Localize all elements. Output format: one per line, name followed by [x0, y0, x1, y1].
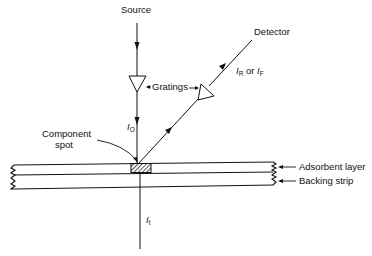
- gratings-label: Gratings: [152, 82, 188, 92]
- adsorbent-layer-label: Adsorbent layer: [299, 162, 366, 172]
- grating-2-icon: [198, 84, 214, 100]
- arrow-left-icon: [278, 179, 283, 183]
- component-spot: [131, 164, 151, 173]
- it-subscript: t: [149, 219, 151, 226]
- backing-strip-label: Backing strip: [299, 176, 353, 186]
- or-text: or: [243, 65, 257, 76]
- incident-beam: [135, 92, 140, 163]
- arrow-right-icon: [195, 86, 199, 90]
- arrow-left-icon: [278, 165, 283, 169]
- detector-label: Detector: [254, 27, 290, 37]
- reflected-intensity-label: IR or IF: [236, 66, 264, 78]
- source-label: Source: [121, 5, 151, 15]
- torn-edge-right: [272, 162, 276, 185]
- component-spot-pointer: [97, 140, 138, 163]
- if-subscript: F: [260, 70, 264, 77]
- arrow-left-icon: [146, 85, 150, 89]
- arrow-down-icon: [135, 42, 140, 50]
- component-label-line2: spot: [55, 140, 73, 150]
- incident-intensity-label: IO: [127, 122, 135, 134]
- layer-pointers: [278, 165, 296, 183]
- io-subscript: O: [130, 126, 135, 133]
- transmitted-intensity-label: It: [146, 215, 150, 227]
- torn-edge-left: [11, 165, 15, 189]
- source-beam: [135, 23, 140, 76]
- reflected-beam: [139, 40, 252, 163]
- component-label-line1: Component: [42, 129, 91, 139]
- grating-1-icon: [129, 76, 146, 92]
- arrow-down-icon: [135, 117, 140, 125]
- arrow-up-right-icon: [165, 127, 172, 134]
